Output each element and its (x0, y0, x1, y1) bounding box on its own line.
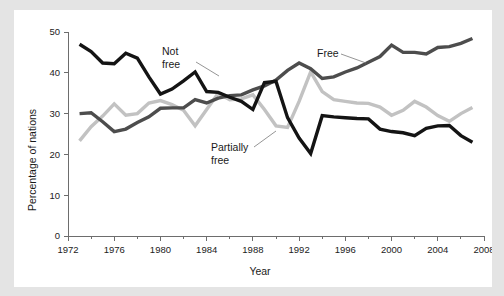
annotation-label-free: Free (317, 47, 339, 59)
series-annotations-layer: NotfreePartiallyfreeFree (162, 45, 366, 166)
annotation-leader-partially-free (254, 131, 276, 147)
x-axis-title: Year (249, 265, 271, 277)
x-tick-label: 1980 (150, 244, 171, 255)
annotation-label-not-free: Not (162, 45, 178, 57)
figure-root: 01020304050 1972197619801984198819921996… (0, 0, 504, 296)
x-tick-label: 1992 (289, 244, 310, 255)
x-tick-label: 1988 (242, 244, 263, 255)
annotation-label-partially-free: Partially (211, 141, 249, 153)
x-tick-label: 1976 (104, 244, 125, 255)
y-tick-label: 30 (49, 108, 60, 119)
x-tick-label: 1984 (196, 244, 217, 255)
x-tick-label: 1996 (335, 244, 356, 255)
line-chart: 01020304050 1972197619801984198819921996… (14, 10, 492, 287)
chart-card: 01020304050 1972197619801984198819921996… (14, 10, 492, 287)
y-axis-title: Percentage of nations (26, 109, 38, 211)
y-tick-label: 0 (55, 230, 60, 241)
x-axis-tick-labels: 1972197619801984198819921996200020042008 (57, 244, 492, 255)
y-axis-tick-labels: 01020304050 (49, 26, 60, 241)
data-series-layer (80, 39, 473, 154)
x-tick-label: 2004 (427, 244, 448, 255)
y-tick-label: 50 (49, 26, 60, 37)
axes-layer (68, 32, 484, 236)
y-tick-label: 20 (49, 149, 60, 160)
axis-ticks-layer (64, 32, 484, 241)
series-line-not-free (80, 44, 473, 153)
annotation-label-not-free-line2: free (162, 58, 180, 70)
x-tick-label: 1972 (57, 244, 78, 255)
y-tick-label: 40 (49, 67, 60, 78)
y-tick-label: 10 (49, 190, 60, 201)
annotation-leader-not-free (196, 62, 219, 76)
annotation-label-partially-free-line2: free (211, 154, 229, 166)
x-tick-label: 2008 (473, 244, 492, 255)
x-tick-label: 2000 (381, 244, 402, 255)
annotation-leader-free (341, 54, 366, 63)
